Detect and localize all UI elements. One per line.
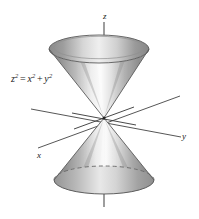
origin-point xyxy=(103,117,106,120)
surface-equation-label: z2=x2+y2 xyxy=(11,72,52,84)
equation-x-exponent: 2 xyxy=(32,72,35,79)
equation-y-exponent: 2 xyxy=(49,72,52,79)
equation-z-exponent: 2 xyxy=(15,72,18,79)
x-axis-label: x xyxy=(37,150,41,160)
equation-equals: = xyxy=(20,73,26,84)
y-axis-label: y xyxy=(182,131,186,141)
upper-cone xyxy=(49,35,149,118)
equation-plus: + xyxy=(37,73,43,84)
cone-figure: z2=x2+y2 z y x xyxy=(0,0,199,219)
cone-diagram-canvas xyxy=(0,0,199,219)
z-axis-label: z xyxy=(103,11,107,21)
